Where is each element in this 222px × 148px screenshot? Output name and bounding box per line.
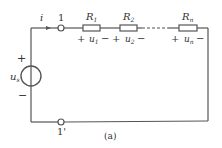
terminal-1-icon (58, 25, 64, 31)
figure-caption: (a) (104, 131, 116, 141)
r2-voltage: u2 (125, 34, 135, 45)
resistor-r2-label: R2 (122, 11, 135, 23)
resistor-r1-icon (83, 25, 100, 31)
resistor-r1-label: R1 (85, 11, 97, 23)
r2-plus: + (112, 33, 120, 44)
current-label: i (40, 12, 43, 23)
r1-minus: − (101, 33, 109, 44)
r2-minus: − (137, 33, 145, 44)
resistor-r2-icon (120, 25, 137, 31)
circuit-diagram: i 1 1' + − us R1 + u1 − R2 + u2 − Rn + u… (0, 0, 222, 148)
rn-plus: + (171, 33, 179, 44)
terminal-1-label: 1 (58, 12, 64, 23)
bottom-wire-2 (64, 121, 208, 122)
source-plus: + (17, 52, 26, 65)
terminal-1p-label: 1' (57, 126, 66, 137)
rn-voltage: un (184, 34, 194, 45)
resistor-rn-icon (179, 25, 197, 31)
source-minus: − (18, 89, 27, 102)
terminal-1p-icon (58, 119, 64, 125)
r1-voltage: u1 (89, 34, 99, 45)
rn-minus: − (196, 33, 204, 44)
source-label: us (10, 71, 20, 83)
current-arrow-icon (46, 26, 51, 30)
resistor-rn-label: Rn (181, 11, 194, 23)
r1-plus: + (77, 33, 85, 44)
